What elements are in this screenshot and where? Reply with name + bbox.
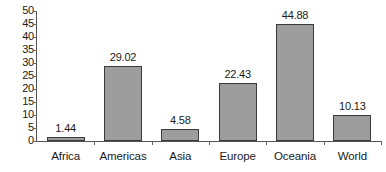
x-tick-mark — [381, 141, 382, 145]
y-tick-label: 0 — [0, 135, 34, 146]
bar-value-label: 44.88 — [282, 10, 309, 21]
x-category-label: World — [324, 150, 381, 163]
x-tick-mark — [209, 141, 210, 145]
y-tick-mark — [33, 102, 37, 103]
bar — [161, 129, 199, 141]
bar-group: 4.58 — [161, 11, 199, 141]
bar-value-label: 1.44 — [55, 123, 76, 134]
x-category-label: Americas — [94, 150, 151, 163]
y-tick-label: 20 — [0, 83, 34, 94]
y-tick-label: 15 — [0, 96, 34, 107]
x-tick-mark — [152, 141, 153, 145]
bar-group: 1.44 — [47, 11, 85, 141]
y-tick-mark — [33, 89, 37, 90]
y-tick-mark — [33, 11, 37, 12]
y-tick-label: 10 — [0, 109, 34, 120]
bar-group: 44.88 — [276, 11, 314, 141]
y-tick-mark — [33, 50, 37, 51]
bar-value-label: 22.43 — [224, 69, 251, 80]
x-category-label: Oceania — [266, 150, 323, 163]
y-tick-mark — [33, 37, 37, 38]
x-category-label: Africa — [37, 150, 94, 163]
y-tick-mark — [33, 76, 37, 77]
x-tick-mark — [94, 141, 95, 145]
x-axis: AfricaAmericasAsiaEuropeOceaniaWorld — [37, 150, 381, 168]
bar-value-label: 4.58 — [170, 115, 191, 126]
x-category-label: Asia — [152, 150, 209, 163]
y-tick-mark — [33, 128, 37, 129]
bar — [276, 24, 314, 141]
bar-group: 29.02 — [104, 11, 142, 141]
y-tick-label: 40 — [0, 31, 34, 42]
y-tick-label: 25 — [0, 70, 34, 81]
bar-chart: 50454035302520151050 1.4429.024.5822.434… — [0, 0, 386, 172]
x-tick-mark — [324, 141, 325, 145]
bar — [104, 66, 142, 141]
y-tick-label: 5 — [0, 122, 34, 133]
bar — [219, 83, 257, 141]
y-tick-label: 30 — [0, 57, 34, 68]
y-axis: 50454035302520151050 — [0, 0, 34, 172]
y-tick-label: 50 — [0, 5, 34, 16]
bar-value-label: 29.02 — [110, 52, 137, 63]
plot-area: 1.4429.024.5822.4344.8810.13 — [37, 11, 381, 141]
bar-group: 22.43 — [219, 11, 257, 141]
y-tick-label: 45 — [0, 18, 34, 29]
y-tick-mark — [33, 63, 37, 64]
y-tick-mark — [33, 141, 37, 142]
bar — [333, 115, 371, 141]
y-tick-mark — [33, 24, 37, 25]
y-tick-mark — [33, 115, 37, 116]
x-category-label: Europe — [209, 150, 266, 163]
bar-group: 10.13 — [333, 11, 371, 141]
bar-value-label: 10.13 — [339, 101, 366, 112]
y-tick-label: 35 — [0, 44, 34, 55]
x-tick-mark — [266, 141, 267, 145]
